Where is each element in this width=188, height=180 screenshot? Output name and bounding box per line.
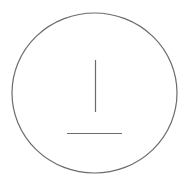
diagram-canvas [0,0,188,180]
perpendicular-symbol-icon [0,0,188,180]
outer-circle [12,13,177,173]
